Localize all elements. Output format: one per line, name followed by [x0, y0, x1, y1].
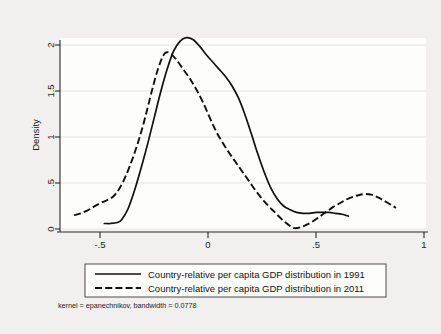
y-tick-label-2: 2 — [45, 42, 56, 47]
x-tick-label-1: 1 — [421, 239, 426, 250]
kernel-density-figure: 0 .5 1 1.5 2 Density -.5 0 .5 1 Country-… — [0, 0, 441, 334]
y-tick-label-0.5: .5 — [45, 179, 56, 187]
chart-canvas: 0 .5 1 1.5 2 Density -.5 0 .5 1 Country-… — [0, 0, 441, 334]
y-axis-title: Density — [30, 119, 41, 151]
plot-area-background — [60, 38, 426, 230]
x-tick-label--0.5: -.5 — [94, 239, 105, 250]
x-tick-label-0: 0 — [205, 239, 210, 250]
y-tick-label-1.5: 1.5 — [45, 84, 56, 97]
legend-label-2011: Country-relative per capita GDP distribu… — [148, 283, 364, 294]
x-tick-label-0.5: .5 — [312, 239, 320, 250]
legend: Country-relative per capita GDP distribu… — [85, 264, 386, 297]
legend-label-1991: Country-relative per capita GDP distribu… — [148, 269, 365, 280]
y-tick-label-0: 0 — [45, 226, 56, 231]
kernel-note: kernel = epanechnikov, bandwidth = 0.077… — [58, 301, 197, 310]
y-tick-label-1: 1 — [45, 134, 56, 139]
